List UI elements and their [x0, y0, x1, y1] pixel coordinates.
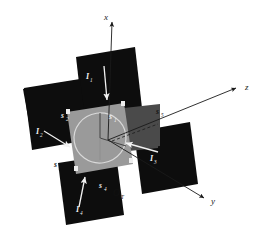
axis-label-x: x	[103, 12, 108, 22]
surface-label-s4-subscript: 4	[104, 186, 107, 192]
corner-tick-top-left	[66, 109, 70, 114]
surface-label-s1-subscript: 1	[114, 117, 117, 123]
surface-label-s3-subscript: 3	[59, 165, 62, 171]
surface-label-s5: s	[155, 107, 159, 116]
surface-label-s2: s	[60, 111, 64, 120]
origin-label: O	[113, 188, 120, 198]
corner-tick-top-right	[121, 101, 125, 106]
corner-tick-bottom-left	[74, 166, 78, 171]
vector-label-I3-subscript: 3	[154, 159, 157, 165]
vector-label-I2-subscript: 2	[40, 132, 43, 138]
surface-label-s3: s	[53, 160, 57, 169]
axis-label-z: z	[244, 82, 249, 92]
corner-tick-bottom-right	[129, 158, 133, 163]
surface-label-s2-subscript: 2	[66, 116, 69, 122]
vector-label-I1-subscript: 1	[90, 77, 93, 83]
surface-label-s4: s	[98, 181, 102, 190]
vector-label-I4-subscript: 4	[80, 210, 83, 216]
axis-label-y: y	[210, 196, 215, 206]
surface-label-s5-subscript: 5	[161, 112, 164, 118]
surface-label-s1: s	[108, 112, 112, 121]
figure-container: x z y O T s 1 s 2 s 3 s 4 s 5 I 1 I 2 I …	[0, 0, 266, 248]
diagram-canvas: x z y O T s 1 s 2 s 3 s 4 s 5 I 1 I 2 I …	[0, 0, 266, 248]
